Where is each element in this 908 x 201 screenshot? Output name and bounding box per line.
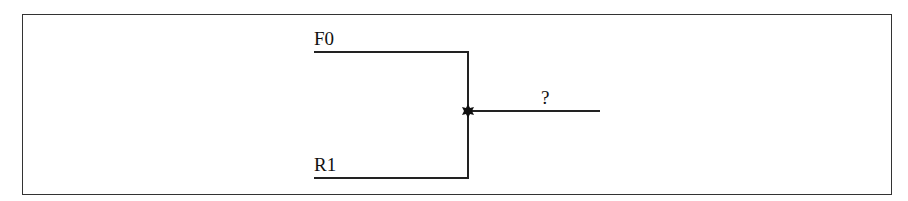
input-label-r1: R1 [314,154,336,175]
input-label-f0: F0 [314,28,334,49]
input-f0: F0 [314,28,468,52]
input-r1: R1 [314,154,468,178]
output-label: ? [541,87,549,108]
output: ? [468,87,600,111]
junction-diagram: F0 R1 ? [0,0,908,201]
